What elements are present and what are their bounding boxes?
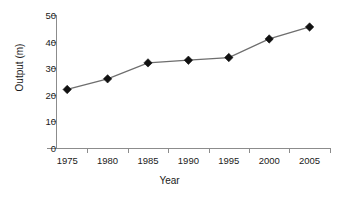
data-point-marker — [225, 53, 233, 61]
data-point-marker — [265, 35, 273, 43]
data-point-marker — [103, 75, 111, 83]
data-point-marker — [184, 56, 192, 64]
series-markers — [63, 23, 314, 94]
data-point-marker — [63, 85, 71, 93]
plot-area — [0, 0, 339, 197]
data-point-marker — [144, 59, 152, 67]
data-point-marker — [305, 23, 313, 31]
line-chart-figure: 01020304050 1975198019851990199520002005… — [0, 0, 339, 197]
